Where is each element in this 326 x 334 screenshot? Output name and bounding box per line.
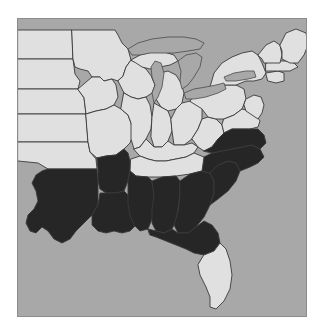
region-north-dakota[interactable] — [18, 30, 73, 59]
map-figure — [0, 0, 326, 334]
us-east-choropleth-map[interactable] — [18, 19, 306, 316]
region-kansas[interactable] — [18, 114, 88, 142]
region-nebraska[interactable] — [18, 89, 86, 114]
region-connecticut-rhode-island[interactable] — [266, 71, 284, 83]
map-frame — [17, 18, 307, 317]
region-south-dakota[interactable] — [18, 59, 80, 89]
